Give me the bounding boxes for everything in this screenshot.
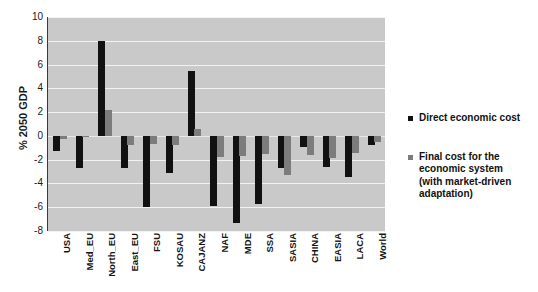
bar-cajanz-final: [194, 129, 201, 136]
bar-ssa-final: [262, 136, 269, 154]
x-tick-cell: World: [362, 233, 385, 291]
x-tick-cell: CAJANZ: [182, 233, 205, 291]
bar-group-naf: [205, 17, 227, 231]
x-tick-cell: NAF: [205, 233, 228, 291]
bar-china-final: [307, 136, 314, 155]
y-tick-label--8: -8: [3, 226, 43, 236]
x-tick-cell: KOSAU: [160, 233, 183, 291]
bar-group-north_eu: [93, 17, 115, 231]
legend-item-final: Final cost for the economic system (with…: [408, 151, 536, 201]
x-tick-cell: MDE: [227, 233, 250, 291]
legend-swatch-final-icon: [408, 155, 413, 160]
bar-north_eu-final: [105, 110, 112, 136]
bar-group-ssa: [250, 17, 272, 231]
x-tick-cell: SASIA: [272, 233, 295, 291]
bar-mde-final: [239, 136, 246, 156]
y-tick-label--4: -4: [3, 178, 43, 188]
legend-label-direct: Direct economic cost: [419, 112, 520, 125]
x-tick-cell: CHINA: [295, 233, 318, 291]
bar-groups: [48, 17, 385, 231]
bar-cajanz-direct: [188, 71, 195, 136]
bar-easia-final: [329, 136, 336, 159]
x-tick-cell: SSA: [250, 233, 273, 291]
bar-fsu-final: [150, 136, 157, 144]
legend-item-direct: Direct economic cost: [408, 112, 536, 125]
y-tick-label--6: -6: [3, 202, 43, 212]
y-tick-label-10: 10: [3, 12, 43, 22]
chart-legend: Direct economic cost Final cost for the …: [408, 112, 536, 227]
y-tick-label--2: -2: [3, 155, 43, 165]
x-axis-ticks: USAMed_EUNorth_EUEast_EUFSUKOSAUCAJANZNA…: [47, 233, 385, 291]
x-tick-cell: North_EU: [92, 233, 115, 291]
x-tick-cell: EASIA: [317, 233, 340, 291]
plot-area: [47, 17, 385, 231]
gridline--8: [48, 231, 385, 232]
bar-group-easia: [318, 17, 340, 231]
x-tick-cell: East_EU: [115, 233, 138, 291]
x-tick-label-world: World: [378, 233, 388, 260]
legend-label-final: Final cost for the economic system (with…: [419, 151, 511, 201]
bar-group-kosau: [160, 17, 182, 231]
legend-label-final-line1: Final cost for the: [419, 151, 500, 162]
bar-group-sasia: [273, 17, 295, 231]
bar-kosau-final: [172, 136, 179, 146]
y-tick-label-2: 2: [3, 107, 43, 117]
bar-fsu-direct: [143, 136, 150, 207]
bar-usa-final: [60, 136, 67, 139]
bar-group-mde: [228, 17, 250, 231]
y-tick-label-4: 4: [3, 83, 43, 93]
bar-east_eu-final: [127, 136, 134, 146]
bar-group-laca: [340, 17, 362, 231]
bar-med_eu-final: [82, 136, 89, 137]
legend-label-final-line4: adaptation): [419, 188, 473, 199]
bar-group-world: [363, 17, 385, 231]
bar-world-final: [374, 136, 381, 142]
x-tick-cell: USA: [47, 233, 70, 291]
bar-group-china: [295, 17, 317, 231]
legend-label-final-line2: economic system: [419, 163, 503, 174]
y-tick-label-8: 8: [3, 36, 43, 46]
legend-label-final-line3: (with market-driven: [419, 176, 511, 187]
bar-sasia-final: [284, 136, 291, 175]
bar-group-east_eu: [115, 17, 137, 231]
bar-naf-final: [217, 136, 224, 157]
y-axis-ticks: 1086420-2-4-6-8: [0, 17, 43, 231]
chart-root: % 2050 GDP 1086420-2-4-6-8 USAMed_EUNort…: [0, 0, 538, 292]
y-tick-label-6: 6: [3, 60, 43, 70]
x-tick-cell: FSU: [137, 233, 160, 291]
bar-laca-final: [352, 136, 359, 153]
y-tick-label-0: 0: [3, 131, 43, 141]
legend-swatch-direct-icon: [408, 116, 413, 121]
bar-group-cajanz: [183, 17, 205, 231]
x-tick-cell: Med_EU: [70, 233, 93, 291]
bar-med_eu-direct: [76, 136, 83, 168]
bar-group-usa: [48, 17, 70, 231]
x-tick-cell: LACA: [340, 233, 363, 291]
bar-group-fsu: [138, 17, 160, 231]
bar-group-med_eu: [70, 17, 92, 231]
